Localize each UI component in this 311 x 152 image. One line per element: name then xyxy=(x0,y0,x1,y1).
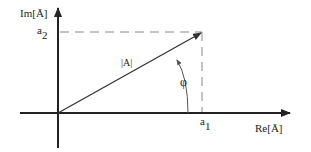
a1-label: a1 xyxy=(200,115,210,132)
a1-subscript: 1 xyxy=(205,120,211,132)
phasor-diagram: Im[Ā] Re[Ā] a2 a1 |A| φ xyxy=(0,0,311,152)
magnitude-label: |A| xyxy=(121,57,132,68)
a2-subscript: 2 xyxy=(42,29,48,41)
a2-label: a2 xyxy=(37,24,47,41)
angle-label: φ xyxy=(180,75,187,89)
phasor-vector xyxy=(58,33,201,113)
real-axis-label: Re[Ā] xyxy=(255,122,283,134)
imaginary-axis-label: Im[Ā] xyxy=(20,7,48,19)
